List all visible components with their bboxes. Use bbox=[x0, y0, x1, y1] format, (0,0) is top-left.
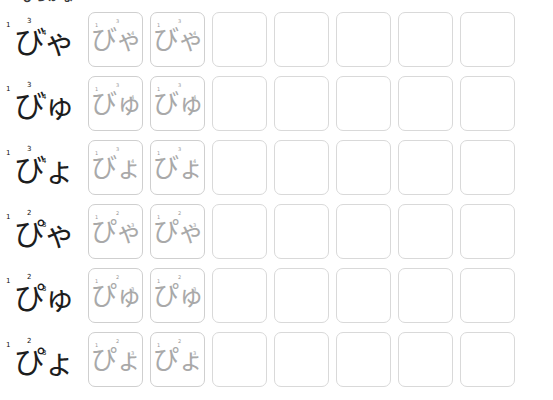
stroke-order-number: 2 bbox=[178, 211, 181, 216]
practice-cell-traced[interactable]: びょ134 bbox=[88, 140, 143, 195]
stroke-order-number: 3 bbox=[131, 287, 134, 292]
practice-cell-blank[interactable] bbox=[274, 140, 329, 195]
practice-cell-traced[interactable]: ぴょ123 bbox=[88, 332, 143, 387]
stroke-order-number: 3 bbox=[193, 351, 196, 356]
practice-cell-traced[interactable]: ぴゅ123 bbox=[88, 268, 143, 323]
stroke-order-number: 3 bbox=[42, 286, 45, 293]
stroke-order-number: 2 bbox=[116, 275, 119, 280]
stroke-order-number: 4 bbox=[131, 31, 134, 36]
practice-cell-blank[interactable] bbox=[336, 12, 391, 67]
practice-cell-traced[interactable]: ぴゃ123 bbox=[88, 204, 143, 259]
practice-cell-blank[interactable] bbox=[212, 268, 267, 323]
stroke-order-number: 3 bbox=[27, 18, 30, 25]
stroke-order-number: 3 bbox=[193, 223, 196, 228]
practice-cell-traced[interactable]: びゅ134 bbox=[150, 76, 205, 131]
stroke-order-number: 3 bbox=[131, 351, 134, 356]
stroke-order-number: 1 bbox=[95, 215, 98, 220]
stroke-order-number: 1 bbox=[6, 278, 9, 285]
worksheet-page: ひらがな びゃ134びゃ134びゃ134びゅ134びゅ134びゅ134びょ134… bbox=[0, 0, 553, 400]
row-model-character: ぴゃ123 bbox=[0, 204, 88, 264]
practice-cell-traced[interactable]: ぴゃ123 bbox=[150, 204, 205, 259]
stroke-order-number: 3 bbox=[131, 223, 134, 228]
practice-cell-blank[interactable] bbox=[460, 332, 515, 387]
practice-cell-blank[interactable] bbox=[460, 268, 515, 323]
practice-grid: びゃ134びゃ134びゃ134びゅ134びゅ134びゅ134びょ134びょ134… bbox=[0, 12, 553, 396]
stroke-order-number: 3 bbox=[116, 19, 119, 24]
row-model-character: びゃ134 bbox=[0, 12, 88, 72]
practice-cell-blank[interactable] bbox=[274, 12, 329, 67]
stroke-order-number: 2 bbox=[27, 338, 30, 345]
practice-cell-traced[interactable]: びゅ134 bbox=[88, 76, 143, 131]
stroke-order-number: 1 bbox=[6, 342, 9, 349]
practice-cell-traced[interactable]: びょ134 bbox=[150, 140, 205, 195]
practice-cell-traced[interactable]: びゃ134 bbox=[88, 12, 143, 67]
practice-cell-traced[interactable]: ぴゅ123 bbox=[150, 268, 205, 323]
stroke-order-number: 1 bbox=[95, 87, 98, 92]
stroke-order-number: 4 bbox=[42, 30, 45, 37]
stroke-order-number: 3 bbox=[193, 287, 196, 292]
practice-cell-blank[interactable] bbox=[212, 140, 267, 195]
practice-cell-blank[interactable] bbox=[274, 332, 329, 387]
stroke-order-number: 3 bbox=[178, 147, 181, 152]
practice-cell-blank[interactable] bbox=[336, 268, 391, 323]
practice-cell-blank[interactable] bbox=[336, 332, 391, 387]
stroke-order-number: 3 bbox=[27, 82, 30, 89]
practice-cell-blank[interactable] bbox=[460, 204, 515, 259]
practice-cell-blank[interactable] bbox=[336, 76, 391, 131]
worksheet-title-cutoff: ひらがな bbox=[22, 0, 182, 3]
practice-cell-blank[interactable] bbox=[212, 204, 267, 259]
practice-cell-blank[interactable] bbox=[274, 204, 329, 259]
practice-cell-blank[interactable] bbox=[274, 268, 329, 323]
stroke-order-number: 4 bbox=[193, 159, 196, 164]
stroke-order-number: 4 bbox=[131, 95, 134, 100]
practice-cell-blank[interactable] bbox=[398, 140, 453, 195]
stroke-order-number: 1 bbox=[157, 215, 160, 220]
stroke-order-number: 2 bbox=[116, 339, 119, 344]
stroke-order-number: 1 bbox=[157, 279, 160, 284]
practice-cell-blank[interactable] bbox=[212, 332, 267, 387]
practice-row: ぴゃ123ぴゃ123ぴゃ123 bbox=[0, 204, 553, 268]
practice-cell-blank[interactable] bbox=[274, 76, 329, 131]
stroke-order-number: 2 bbox=[178, 339, 181, 344]
practice-cell-traced[interactable]: びゃ134 bbox=[150, 12, 205, 67]
practice-row: びゅ134びゅ134びゅ134 bbox=[0, 76, 553, 140]
practice-cell-blank[interactable] bbox=[336, 204, 391, 259]
practice-cell-blank[interactable] bbox=[460, 140, 515, 195]
stroke-order-number: 2 bbox=[27, 210, 30, 217]
practice-cell-blank[interactable] bbox=[398, 204, 453, 259]
stroke-order-number: 1 bbox=[157, 87, 160, 92]
stroke-order-number: 3 bbox=[178, 19, 181, 24]
stroke-order-number: 3 bbox=[42, 350, 45, 357]
practice-row: ぴょ123ぴょ123ぴょ123 bbox=[0, 332, 553, 396]
practice-cell-blank[interactable] bbox=[398, 12, 453, 67]
stroke-order-number: 1 bbox=[95, 279, 98, 284]
stroke-order-number: 4 bbox=[42, 158, 45, 165]
practice-cell-blank[interactable] bbox=[460, 76, 515, 131]
stroke-order-number: 1 bbox=[6, 86, 9, 93]
practice-row: ぴゅ123ぴゅ123ぴゅ123 bbox=[0, 268, 553, 332]
stroke-order-number: 1 bbox=[95, 343, 98, 348]
practice-cell-traced[interactable]: ぴょ123 bbox=[150, 332, 205, 387]
stroke-order-number: 1 bbox=[157, 151, 160, 156]
stroke-order-number: 3 bbox=[178, 83, 181, 88]
practice-cell-blank[interactable] bbox=[336, 140, 391, 195]
row-model-character: ぴょ123 bbox=[0, 332, 88, 392]
practice-cell-blank[interactable] bbox=[398, 268, 453, 323]
practice-row: びょ134びょ134びょ134 bbox=[0, 140, 553, 204]
stroke-order-number: 3 bbox=[27, 146, 30, 153]
practice-cell-blank[interactable] bbox=[212, 76, 267, 131]
stroke-order-number: 1 bbox=[157, 343, 160, 348]
practice-cell-blank[interactable] bbox=[460, 12, 515, 67]
stroke-order-number: 1 bbox=[6, 22, 9, 29]
practice-cell-blank[interactable] bbox=[398, 332, 453, 387]
stroke-order-number: 1 bbox=[157, 23, 160, 28]
stroke-order-number: 2 bbox=[178, 275, 181, 280]
stroke-order-number: 2 bbox=[27, 274, 30, 281]
practice-cell-blank[interactable] bbox=[398, 76, 453, 131]
practice-cell-blank[interactable] bbox=[212, 12, 267, 67]
row-model-character: びゅ134 bbox=[0, 76, 88, 136]
row-model-character: びょ134 bbox=[0, 140, 88, 200]
stroke-order-number: 3 bbox=[116, 83, 119, 88]
stroke-order-number: 2 bbox=[116, 211, 119, 216]
stroke-order-number: 4 bbox=[193, 31, 196, 36]
